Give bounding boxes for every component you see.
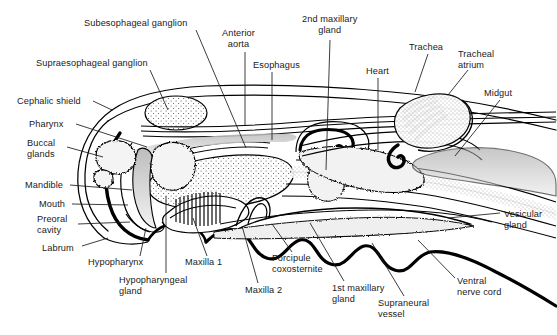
label-hypopharynx: Hypopharynx bbox=[88, 257, 143, 268]
buccal-glands-shape bbox=[94, 141, 136, 188]
leader-preoral-cavity bbox=[78, 222, 130, 224]
label-1st-maxillary-gland: 1st maxillary gland bbox=[332, 283, 384, 304]
label-midgut: Midgut bbox=[484, 88, 512, 99]
label-cephalic-shield: Cephalic shield bbox=[17, 96, 81, 107]
leader-cephalic-shield bbox=[93, 101, 112, 110]
leader-labrum bbox=[82, 238, 108, 246]
figure-canvas: Subesophageal ganglionAnterior aorta2nd … bbox=[0, 0, 557, 335]
label-tracheal-atrium: Tracheal atrium bbox=[458, 49, 494, 70]
label-pharynx: Pharynx bbox=[29, 119, 63, 130]
label-vesicular-gland: Vesicular gland bbox=[504, 209, 542, 230]
ventral-nerve-cord-shape bbox=[214, 217, 474, 239]
supraesophageal-ganglion-shape bbox=[145, 96, 207, 130]
label-mandible: Mandible bbox=[25, 180, 63, 191]
label-mouth: Mouth bbox=[39, 199, 65, 210]
leader-trachea bbox=[415, 54, 428, 92]
label-subesophageal-ganglion: Subesophageal ganglion bbox=[84, 18, 187, 29]
leader-ventral-nerve-cord bbox=[418, 240, 455, 278]
label-heart: Heart bbox=[366, 66, 389, 77]
label-preoral-cavity: Preoral cavity bbox=[37, 214, 67, 235]
label-trachea: Trachea bbox=[409, 42, 443, 53]
leader-tracheal-atrium bbox=[448, 70, 468, 95]
label-maxilla-1: Maxilla 1 bbox=[185, 257, 222, 268]
leader-mouth bbox=[72, 204, 128, 205]
label-hypopharyngeal-gland: Hypopharyngeal gland bbox=[119, 275, 187, 296]
label-esophagus: Esophagus bbox=[253, 60, 300, 71]
tracheal-atrium-shape bbox=[394, 94, 472, 151]
label-supraesophageal-ganglion: Supraesophageal ganglion bbox=[36, 58, 148, 69]
label-maxilla-2: Maxilla 2 bbox=[245, 285, 282, 296]
label-forcipule-coxosternite: Forcipule coxosternite bbox=[272, 253, 323, 274]
label-labrum: Labrum bbox=[42, 243, 74, 254]
hypopharyngeal-gland-shape bbox=[151, 142, 195, 190]
leader-hypopharynx bbox=[140, 228, 146, 256]
label-buccal-glands: Buccal glands bbox=[27, 138, 55, 159]
label-supraneural-vessel: Supraneural vessel bbox=[378, 298, 429, 319]
label-anterior-aorta: Anterior aorta bbox=[222, 28, 255, 49]
label-2nd-maxillary-gland: 2nd maxillary gland bbox=[302, 14, 357, 35]
label-ventral-nerve-cord: Ventral nerve cord bbox=[457, 276, 501, 297]
